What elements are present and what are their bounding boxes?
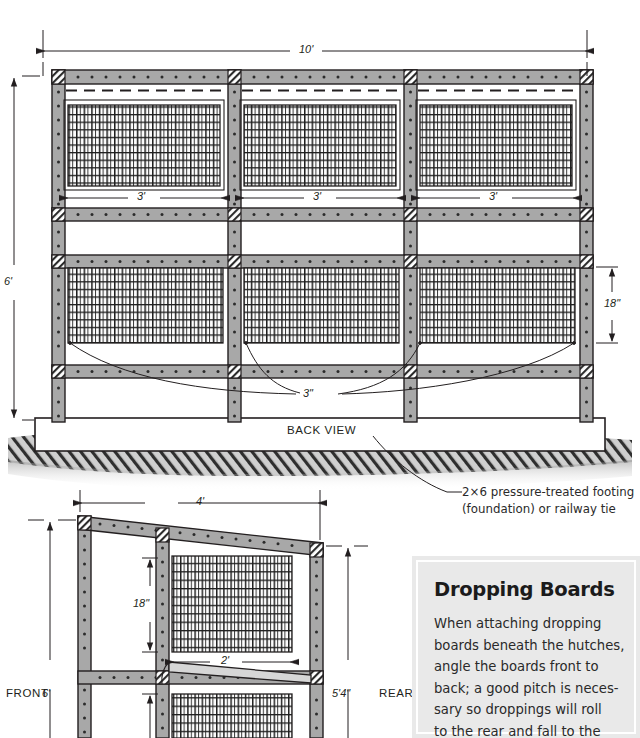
- dimension-overall-width: [43, 30, 587, 76]
- side-lower-mesh-panel: [172, 694, 292, 738]
- lower-mesh-panel: [68, 268, 575, 343]
- dimension-rear-height: [326, 546, 368, 738]
- body-line: boards beneath the hutches,: [434, 635, 618, 657]
- body-line: sary so droppings will roll: [434, 699, 618, 721]
- side-view-frame: [78, 516, 323, 738]
- body-line: back; a good pitch is neces-: [434, 678, 618, 700]
- sloped-top-rail: [78, 516, 323, 556]
- label-overall-height: 6': [4, 275, 12, 287]
- dropping-boards-panel-inner: Dropping Boards When attaching dropping …: [416, 560, 636, 734]
- label-bay-width-1: 3': [137, 190, 145, 202]
- label-side-panel-width: 2': [221, 654, 229, 666]
- back-view-frame: [52, 70, 593, 422]
- label-bay-width-2: 3': [313, 190, 321, 202]
- label-overall-width: 10': [299, 43, 313, 55]
- body-line: When attaching dropping: [434, 613, 618, 635]
- label-rear: REAR: [379, 687, 413, 699]
- dropping-boards-panel: Dropping Boards When attaching dropping …: [412, 556, 640, 738]
- label-side-panel-height: 18": [133, 597, 149, 609]
- label-gap-callout: 3": [303, 387, 313, 399]
- label-side-depth: 4': [196, 495, 204, 507]
- label-bay-width-3: 3': [489, 190, 497, 202]
- dropping-boards-heading: Dropping Boards: [434, 580, 618, 600]
- dropping-boards-body: When attaching dropping boards beneath t…: [434, 613, 618, 738]
- upper-mesh-panel: [68, 105, 572, 186]
- side-upper-mesh-panel: [172, 556, 292, 652]
- dimension-front-height: [28, 520, 76, 738]
- dimension-overall-height: [11, 76, 40, 420]
- body-line: to the rear and fall to the: [434, 721, 618, 738]
- body-line: angle the boards front to: [434, 656, 618, 678]
- label-back-view: BACK VIEW: [287, 424, 356, 436]
- label-rear-height: 5'4": [332, 687, 350, 699]
- blueprint-page: 10' 6' 3' 3' 3' 18" 3" BACK VIEW 2×6 pre…: [0, 0, 640, 738]
- label-panel-height-back: 18": [604, 297, 620, 309]
- footing-note-line-1: 2×6 pressure-treated footing: [462, 484, 634, 501]
- label-front-height: 6': [42, 687, 50, 699]
- footing-note-line-2: (foundation) or railway tie: [462, 501, 616, 518]
